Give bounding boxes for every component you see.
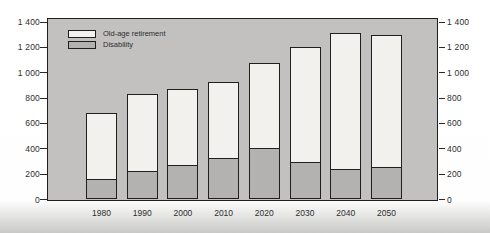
y-tick-right xyxy=(439,47,446,48)
y-axis-right-label-800: 800 xyxy=(447,93,487,103)
y-tick-right xyxy=(439,174,446,175)
y-axis-left-label-600: 600 xyxy=(0,118,40,128)
y-axis-left-label-1000: 1 000 xyxy=(0,68,40,78)
y-axis-right-label-400: 400 xyxy=(447,144,487,154)
y-axis-left-label-400: 400 xyxy=(0,144,40,154)
bar-2000 xyxy=(167,89,198,199)
y-axis-right-label-1200: 1 200 xyxy=(447,42,487,52)
y-tick-right xyxy=(439,22,446,23)
y-tick-right xyxy=(439,98,446,99)
bar-1980-disability-segment xyxy=(87,179,116,198)
bar-2030 xyxy=(290,47,321,199)
y-tick-right xyxy=(439,72,446,73)
bar-2050 xyxy=(371,35,402,200)
y-axis-left-label-1400: 1 400 xyxy=(0,17,40,27)
bar-1980 xyxy=(86,113,117,199)
y-tick-left xyxy=(40,22,47,23)
y-axis-left-label-200: 200 xyxy=(0,169,40,179)
legend-label-old-age-retirement: Old-age retirement xyxy=(103,29,166,38)
bar-1990 xyxy=(127,94,158,200)
y-tick-right xyxy=(439,199,446,200)
y-axis-left-label-800: 800 xyxy=(0,93,40,103)
y-tick-left xyxy=(40,98,47,99)
bar-1990-disability-segment xyxy=(128,171,157,198)
y-tick-left xyxy=(40,148,47,149)
y-axis-right-label-600: 600 xyxy=(447,118,487,128)
legend: Old-age retirement Disability xyxy=(68,28,166,50)
bar-2010-disability-segment xyxy=(209,158,238,198)
y-axis-left-label-0: 0 xyxy=(0,195,40,205)
y-axis-left-label-1200: 1 200 xyxy=(0,42,40,52)
y-tick-right xyxy=(439,148,446,149)
bar-2040 xyxy=(330,33,361,199)
legend-item-old-age-retirement: Old-age retirement xyxy=(68,28,166,39)
bar-2040-disability-segment xyxy=(331,169,360,199)
legend-item-disability: Disability xyxy=(68,39,166,50)
y-axis-right-label-0: 0 xyxy=(447,195,487,205)
y-tick-left xyxy=(40,47,47,48)
y-axis-right-label-1400: 1 400 xyxy=(447,17,487,27)
legend-swatch-old-age-icon xyxy=(68,30,96,38)
bar-2010 xyxy=(208,82,239,200)
y-axis-right-label-200: 200 xyxy=(447,169,487,179)
y-tick-left xyxy=(40,199,47,200)
y-axis-right-label-1000: 1 000 xyxy=(447,68,487,78)
x-axis-label-2050: 2050 xyxy=(361,208,411,218)
bar-2020-disability-segment xyxy=(250,148,279,198)
y-tick-left xyxy=(40,123,47,124)
y-tick-left xyxy=(40,174,47,175)
bar-2030-disability-segment xyxy=(291,162,320,199)
figure: Old-age retirement Disability 0020020040… xyxy=(0,0,490,233)
bar-2000-disability-segment xyxy=(168,165,197,199)
bar-2050-disability-segment xyxy=(372,167,401,198)
y-tick-right xyxy=(439,123,446,124)
legend-label-disability: Disability xyxy=(103,40,133,49)
legend-swatch-disability-icon xyxy=(68,41,96,49)
y-tick-left xyxy=(40,72,47,73)
bar-2020 xyxy=(249,63,280,200)
